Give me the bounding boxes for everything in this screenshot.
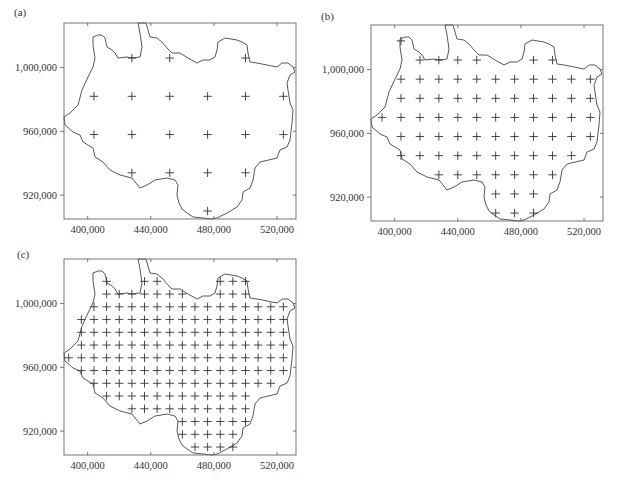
sample-point-marker	[491, 151, 499, 159]
sample-point-marker	[279, 315, 287, 323]
sample-point-marker	[178, 366, 186, 374]
sample-point-marker	[203, 169, 211, 177]
sample-point-marker	[229, 328, 237, 336]
sample-point-marker	[473, 113, 481, 121]
sample-point-marker	[586, 94, 594, 102]
sample-point-marker	[229, 430, 237, 438]
sample-point-marker	[115, 341, 123, 349]
sample-point-marker	[77, 341, 85, 349]
region-boundary	[64, 259, 295, 455]
sample-point-marker	[267, 303, 275, 311]
sample-point-marker	[454, 56, 462, 64]
sample-point-marker	[397, 113, 405, 121]
y-tick-label: 1,000,000	[15, 62, 57, 73]
sample-point-marker	[216, 341, 224, 349]
sample-point-marker	[153, 277, 161, 285]
sample-point-marker	[140, 315, 148, 323]
sample-point-marker	[241, 366, 249, 374]
sample-point-marker	[203, 379, 211, 387]
sample-point-marker	[241, 315, 249, 323]
sample-point-marker	[203, 207, 211, 215]
sample-point-marker	[203, 417, 211, 425]
sample-point-marker	[510, 171, 518, 179]
sample-point-marker	[128, 328, 136, 336]
sample-point-marker	[90, 379, 98, 387]
sample-point-marker	[510, 151, 518, 159]
sample-point-marker	[529, 75, 537, 83]
sample-point-marker	[128, 354, 136, 362]
sample-point-marker	[115, 379, 123, 387]
sample-point-marker	[586, 132, 594, 140]
panel-c-plot: 400,000440,000480,000520,000920,000960,0…	[0, 245, 314, 492]
sample-point-marker	[77, 366, 85, 374]
sample-point-marker	[267, 354, 275, 362]
sample-point-marker	[241, 130, 249, 138]
sample-point-marker	[241, 405, 249, 413]
panel-a-plot: 400,000440,000480,000520,000920,000960,0…	[0, 0, 314, 245]
sample-point-marker	[279, 130, 287, 138]
sample-point-marker	[166, 303, 174, 311]
sample-point-marker	[216, 315, 224, 323]
sample-point-marker	[203, 315, 211, 323]
sample-point-marker	[267, 315, 275, 323]
sample-point-marker	[435, 56, 443, 64]
sample-point-marker	[254, 379, 262, 387]
sample-point-marker	[115, 366, 123, 374]
sample-point-marker	[473, 56, 481, 64]
sample-point-marker	[397, 94, 405, 102]
y-tick-label: 920,000	[23, 426, 57, 437]
sample-point-marker	[166, 54, 174, 62]
sample-point-marker	[397, 75, 405, 83]
sample-point-marker	[491, 75, 499, 83]
sample-point-marker	[203, 354, 211, 362]
sample-point-marker	[191, 341, 199, 349]
sample-point-marker	[90, 354, 98, 362]
y-tick-label: 960,000	[23, 362, 57, 373]
sample-point-marker	[435, 113, 443, 121]
sample-point-marker	[166, 290, 174, 298]
sample-point-marker	[140, 392, 148, 400]
sample-point-marker	[115, 328, 123, 336]
sample-point-marker	[153, 405, 161, 413]
sample-point-marker	[203, 430, 211, 438]
x-tick-label: 520,000	[567, 226, 601, 237]
sample-point-marker	[529, 209, 537, 217]
sample-point-marker	[216, 328, 224, 336]
sample-point-marker	[140, 328, 148, 336]
sample-point-marker	[77, 315, 85, 323]
sample-point-marker	[90, 303, 98, 311]
sample-point-marker	[229, 277, 237, 285]
sample-point-marker	[128, 130, 136, 138]
sample-point-marker	[191, 379, 199, 387]
sample-point-marker	[153, 366, 161, 374]
sample-point-marker	[397, 151, 405, 159]
sample-point-marker	[90, 366, 98, 374]
sample-point-marker	[166, 130, 174, 138]
sample-point-marker	[491, 209, 499, 217]
sample-point-marker	[153, 341, 161, 349]
plot-area: 400,000440,000480,000520,000920,000960,0…	[15, 259, 296, 471]
sample-point-marker	[279, 354, 287, 362]
sample-point-marker	[153, 379, 161, 387]
sample-point-marker	[153, 354, 161, 362]
sample-point-marker	[128, 315, 136, 323]
sample-point-marker	[435, 94, 443, 102]
sample-point-marker	[166, 366, 174, 374]
sample-point-marker	[397, 37, 405, 45]
sample-point-marker	[191, 328, 199, 336]
sample-point-marker	[153, 303, 161, 311]
sample-point-marker	[203, 303, 211, 311]
sample-point-marker	[128, 290, 136, 298]
sample-point-marker	[397, 132, 405, 140]
sample-point-marker	[229, 303, 237, 311]
sample-point-marker	[548, 151, 556, 159]
sample-point-marker	[216, 392, 224, 400]
sample-point-marker	[166, 328, 174, 336]
sample-point-marker	[178, 315, 186, 323]
sample-point-marker	[241, 379, 249, 387]
sample-point-marker	[216, 290, 224, 298]
sample-point-marker	[279, 366, 287, 374]
sample-point-marker	[115, 392, 123, 400]
x-tick-label: 480,000	[504, 226, 538, 237]
sample-point-marker	[128, 303, 136, 311]
